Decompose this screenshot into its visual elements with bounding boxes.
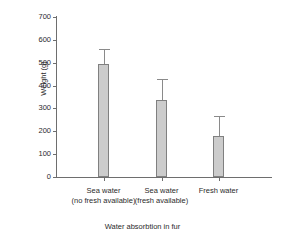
y-axis-tick-mark [53, 108, 57, 109]
x-axis-tick-mark [104, 177, 105, 181]
error-bar-stem [219, 116, 220, 135]
y-axis-tick-label: 200 [38, 126, 51, 135]
error-bar-stem [104, 49, 105, 64]
bar [156, 100, 167, 177]
y-axis-tick-mark [53, 17, 57, 18]
x-axis-category-label: Fresh water [159, 186, 279, 196]
bar [98, 64, 109, 177]
error-bar-cap [157, 79, 168, 80]
bar-chart: 0100200300400500600700 Weight (g) Sea wa… [0, 0, 285, 238]
error-bar-cap [214, 116, 225, 117]
y-axis-tick-label: 0 [47, 172, 51, 181]
y-axis-tick-mark [53, 63, 57, 64]
y-axis-tick-label: 100 [38, 149, 51, 158]
y-axis-tick-mark [53, 154, 57, 155]
y-axis-tick-mark [53, 40, 57, 41]
y-axis-title: Weight (g) [39, 34, 48, 124]
error-bar-cap [99, 49, 110, 50]
x-axis-tick-mark [219, 177, 220, 181]
y-axis-tick-label: 700 [38, 12, 51, 21]
x-axis-tick-mark [162, 177, 163, 181]
plot-area: 0100200300400500600700 [57, 17, 272, 177]
x-axis-line [56, 177, 272, 178]
error-bar-stem [162, 79, 163, 101]
y-axis-tick-mark [53, 131, 57, 132]
category-label-line-2: (fresh available) [102, 196, 222, 206]
category-label-line-1: Fresh water [159, 186, 279, 196]
y-axis-tick-mark [53, 86, 57, 87]
x-axis-title: Water absorbtion in fur [0, 222, 285, 231]
bar [213, 136, 224, 177]
y-axis-tick-mark [53, 177, 57, 178]
